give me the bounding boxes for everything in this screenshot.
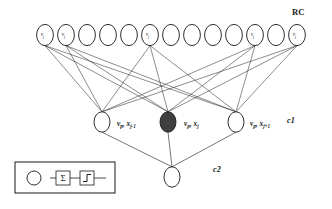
summation-glyph-icon: Σ xyxy=(60,173,65,183)
legend-group: Σ xyxy=(15,162,115,193)
middle-layer-node xyxy=(228,112,244,132)
top-node-label: vj xyxy=(146,32,149,40)
middle-node-label: vp, xj xyxy=(184,120,199,130)
bottom-layer-node-group xyxy=(164,167,180,187)
top-node-label: vj xyxy=(251,32,254,40)
top-node-label: vj xyxy=(41,32,44,40)
edge-group-middle-to-bottom xyxy=(102,132,236,167)
top-layer-node xyxy=(79,24,96,45)
top-layer-node xyxy=(268,24,285,45)
network-diagram-svg: Σ xyxy=(0,0,332,209)
top-layer-node xyxy=(163,24,180,45)
edge-top-to-middle xyxy=(66,46,102,112)
figure-canvas: Σ RC c1 c2 vjvjvjvjvjvp, xj-1vp, xjvp, x… xyxy=(0,0,332,209)
c2-label: c2 xyxy=(213,166,221,174)
top-layer-node xyxy=(226,24,243,45)
top-layer-node xyxy=(37,24,54,45)
edge-top-to-middle xyxy=(102,46,150,112)
middle-layer-node xyxy=(94,112,110,132)
edge-top-to-middle xyxy=(150,46,236,112)
edge-top-to-middle xyxy=(66,46,236,112)
edge-top-to-middle xyxy=(236,46,255,112)
top-layer-node xyxy=(289,24,306,45)
middle-node-label: vp, xj+1 xyxy=(250,120,270,130)
top-node-label: vj xyxy=(62,32,65,40)
top-layer-node xyxy=(100,24,117,45)
edge-middle-to-bottom xyxy=(172,132,236,167)
edge-top-to-middle xyxy=(102,46,297,112)
top-layer-node-group xyxy=(37,24,306,45)
rc-label: RC xyxy=(292,8,304,17)
top-layer-node xyxy=(184,24,201,45)
edge-middle-to-bottom xyxy=(168,132,172,167)
middle-node-label: vp, xj-1 xyxy=(117,120,136,130)
top-layer-node xyxy=(121,24,138,45)
top-layer-node xyxy=(142,24,159,45)
edge-group-top-to-middle xyxy=(45,46,297,112)
neuron-circle-icon xyxy=(27,171,41,185)
edge-top-to-middle xyxy=(168,46,255,112)
top-layer-node xyxy=(247,24,264,45)
c1-label: c1 xyxy=(287,117,295,125)
bottom-layer-node xyxy=(164,167,180,187)
edge-top-to-middle xyxy=(236,46,297,112)
top-layer-node xyxy=(58,24,75,45)
middle-layer-node-highlighted xyxy=(160,112,176,132)
edge-top-to-middle xyxy=(45,46,168,112)
top-node-label: vj xyxy=(293,32,296,40)
top-layer-node xyxy=(205,24,222,45)
